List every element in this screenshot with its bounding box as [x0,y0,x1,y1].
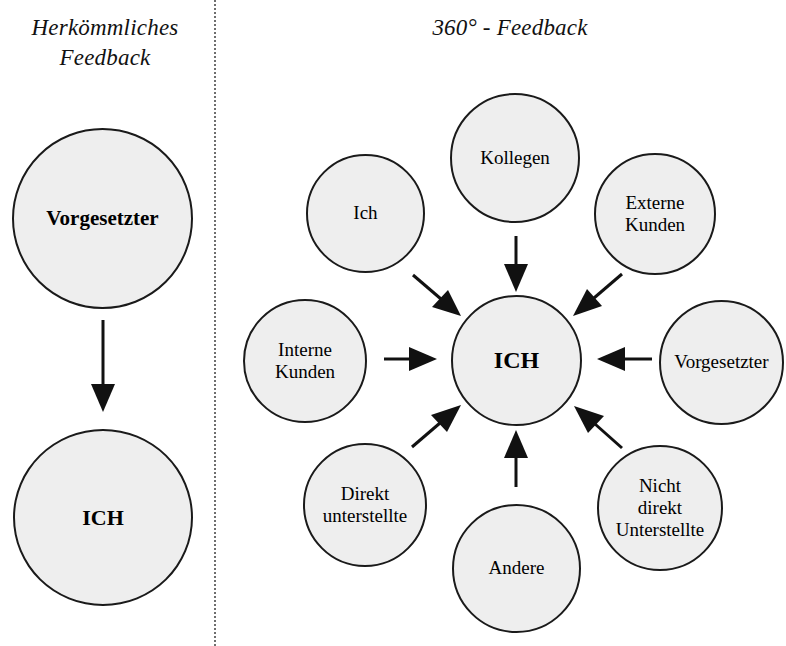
node-interne-kunden: Interne Kunden [243,299,367,423]
node-interne-kunden-label: Interne Kunden [269,339,341,383]
node-kollegen-label: Kollegen [474,147,556,169]
node-vorgesetzter-label: Vorgesetzter [668,351,774,373]
diagram-root: Herkömmliches Feedback Vorgesetzter ICH … [0,0,786,646]
node-andere-label: Andere [483,557,551,579]
node-nicht-direkt-unterstellte: Nicht direkt Unterstellte [597,445,723,571]
node-traditional-supervisor-label: Vorgesetzter [40,206,164,230]
node-traditional-supervisor: Vorgesetzter [12,128,193,309]
node-direkt-unterstellte-label: Direkt unterstellte [317,483,413,527]
node-direkt-unterstellte: Direkt unterstellte [303,443,427,567]
node-traditional-self: ICH [13,429,193,606]
node-externe-kunden-label: Externe Kunden [619,192,691,236]
traditional-feedback-panel: Herkömmliches Feedback Vorgesetzter ICH [0,0,215,646]
node-ich: Ich [306,154,425,273]
node-nicht-direkt-unterstellte-label: Nicht direkt Unterstellte [610,475,711,541]
traditional-feedback-title: Herkömmliches Feedback [0,13,210,73]
node-externe-kunden: Externe Kunden [594,153,716,275]
node-traditional-self-label: ICH [76,505,130,531]
node-center-self: ICH [451,295,582,426]
node-vorgesetzter: Vorgesetzter [659,300,784,425]
feedback-360-title: 360° - Feedback [300,13,720,43]
node-andere: Andere [452,504,581,633]
node-ich-label: Ich [347,202,383,224]
node-kollegen: Kollegen [450,93,580,223]
node-center-self-label: ICH [488,347,545,375]
